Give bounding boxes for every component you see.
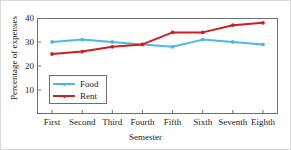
data-point-food xyxy=(110,40,114,44)
chart-figure: 10203040 FirstSecondThirdFourthFifthSixt… xyxy=(0,0,291,150)
x-axis-tick-label: Third xyxy=(102,117,122,127)
data-point-food xyxy=(261,43,265,47)
x-axis-tick-label: Seventh xyxy=(218,117,247,127)
x-axis-title: Semester xyxy=(1,132,290,142)
data-point-food xyxy=(80,38,84,42)
y-axis-tick-label: 40 xyxy=(25,14,34,23)
data-point-rent xyxy=(80,50,84,54)
x-axis-tick-label: Eighth xyxy=(251,117,275,127)
series-line-rent xyxy=(52,23,263,54)
data-point-rent xyxy=(201,31,205,35)
data-point-food xyxy=(171,45,175,49)
y-axis-tick-label: 20 xyxy=(25,62,34,71)
data-point-food xyxy=(50,40,54,44)
x-axis-tick-label: Fifth xyxy=(164,117,182,127)
y-axis-title: Percentage of expenses xyxy=(9,0,19,117)
legend-item-food[interactable]: Food xyxy=(53,78,103,90)
legend-label: Rent xyxy=(80,92,97,101)
data-series-layer xyxy=(50,21,265,56)
x-axis-ticks xyxy=(52,110,263,114)
legend-swatch-icon xyxy=(53,95,75,97)
y-axis-ticks xyxy=(37,42,41,90)
data-point-food xyxy=(201,38,205,42)
y-axis-tick-label: 30 xyxy=(25,38,34,47)
x-axis-tick-label: Second xyxy=(69,117,96,127)
data-point-food xyxy=(231,40,235,44)
data-point-rent xyxy=(110,45,114,49)
x-axis-tick-label: First xyxy=(44,117,61,127)
legend-item-rent[interactable]: Rent xyxy=(53,90,103,102)
x-axis-tick-label: Sixth xyxy=(193,117,212,127)
data-point-rent xyxy=(261,21,265,25)
legend-label: Food xyxy=(80,80,99,89)
data-point-rent xyxy=(171,31,175,35)
chart-legend: FoodRent xyxy=(49,75,107,104)
data-point-rent xyxy=(50,52,54,56)
y-axis-tick-label: 10 xyxy=(25,86,34,95)
data-point-rent xyxy=(141,43,145,47)
data-point-rent xyxy=(231,23,235,27)
x-axis-tick-label: Fourth xyxy=(130,117,154,127)
legend-swatch-icon xyxy=(53,83,75,85)
